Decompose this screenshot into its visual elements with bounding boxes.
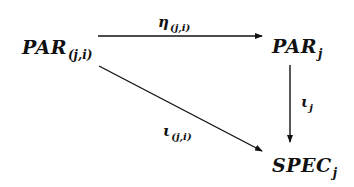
commutative-diagram: PAR(j,i) PARj SPECj η(j,i) ιj ι(j,i) (0, 0, 354, 187)
label-eta: η(j,i) (158, 14, 190, 30)
node-par-j-sub: j (318, 47, 322, 61)
node-spec-j-sub: j (333, 166, 337, 180)
node-spec-j: SPECj (272, 156, 337, 175)
node-par-ji: PAR(j,i) (22, 38, 92, 57)
node-par-j-main: PAR (272, 35, 317, 57)
label-iota-j-sub: j (309, 102, 313, 113)
label-iota-ji-main: ι (163, 122, 170, 140)
node-par-ji-sub: (j,i) (68, 48, 92, 62)
label-eta-sub: (j,i) (170, 22, 190, 33)
node-spec-j-main: SPEC (272, 154, 332, 176)
label-iota-j-main: ι (301, 93, 308, 111)
node-par-j: PARj (272, 37, 322, 56)
label-iota-ji: ι(j,i) (163, 123, 192, 139)
label-iota-ji-sub: (j,i) (171, 131, 191, 142)
label-eta-main: η (158, 13, 169, 31)
label-iota-j: ιj (301, 94, 313, 110)
node-par-ji-main: PAR (22, 36, 67, 58)
